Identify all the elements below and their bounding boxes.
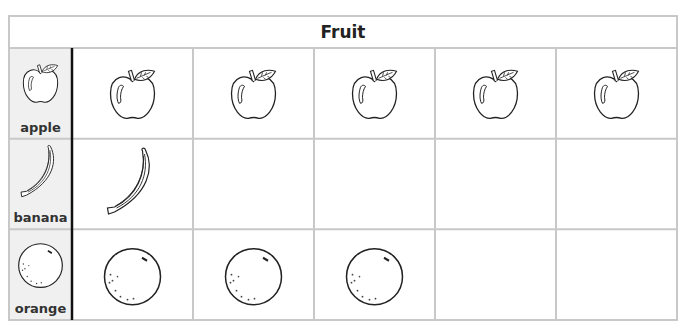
chart-title: Fruit (321, 22, 366, 42)
orange-icon (226, 249, 282, 305)
apple-icon (232, 70, 276, 118)
row-label-apple: apple (20, 120, 61, 135)
pictograph-chart: applebananaorange Fruit (0, 0, 686, 331)
row-label-banana: banana (13, 210, 67, 225)
banana-icon (108, 148, 150, 214)
orange-icon (347, 249, 403, 305)
apple-icon (474, 70, 518, 118)
apple-icon (353, 70, 397, 118)
orange-icon (19, 244, 63, 288)
row-label-orange: orange (15, 301, 67, 316)
orange-icon (105, 249, 161, 305)
apple-icon (111, 70, 155, 118)
apple-icon (595, 70, 639, 118)
